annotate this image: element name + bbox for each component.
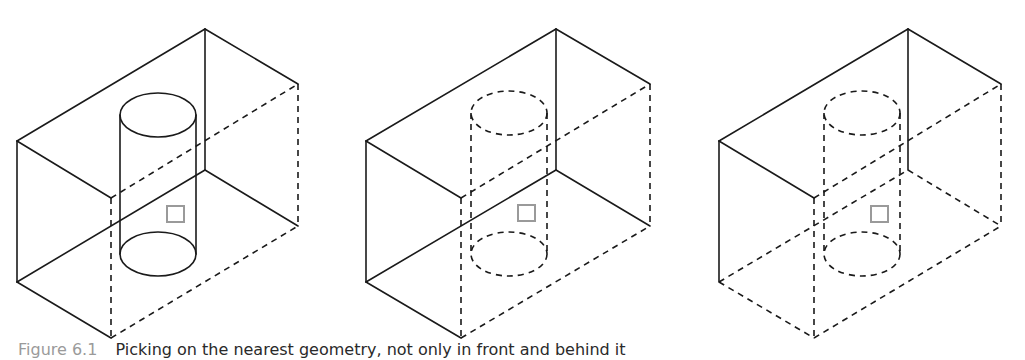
box-wireframe	[17, 29, 298, 338]
pick-box-icon	[871, 206, 888, 222]
cylinder	[120, 93, 196, 276]
box-wireframe	[366, 29, 650, 338]
pick-box-icon	[167, 206, 184, 222]
figure-label: Figure 6.1	[18, 340, 97, 359]
box-wireframe	[719, 29, 1001, 338]
panel-visible-cylinder	[17, 29, 298, 338]
panel-hidden-cylinder	[366, 29, 650, 338]
caption-text: Picking on the nearest geometry, not onl…	[115, 340, 625, 359]
cylinder	[471, 91, 547, 276]
cylinder	[824, 91, 900, 276]
pick-box-icon	[518, 205, 535, 221]
panel-hidden-cylinder-open-bottom	[719, 29, 1001, 338]
figure-caption: Figure 6.1Picking on the nearest geometr…	[18, 340, 626, 360]
